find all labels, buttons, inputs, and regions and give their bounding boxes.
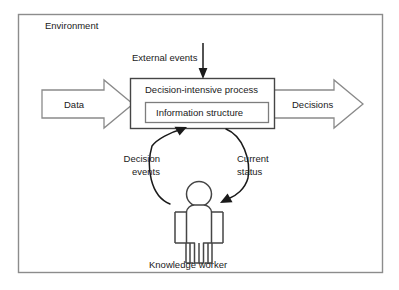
decision-events-label: Decisionevents xyxy=(112,152,160,178)
knowledge-worker-figure xyxy=(175,182,223,264)
diagram-graphics xyxy=(0,0,399,290)
decision-events-label-line1: Decision xyxy=(124,153,160,164)
data-flow-arrow xyxy=(42,80,133,128)
knowledge-worker-label: Knowledge worker xyxy=(149,259,227,270)
data-label: Data xyxy=(64,99,84,110)
information-structure-label: Information structure xyxy=(156,107,243,118)
current-status-label: Currentstatus xyxy=(237,152,289,178)
diagram-canvas: Environment External events Data Decisio… xyxy=(0,0,399,290)
environment-label: Environment xyxy=(45,20,98,31)
external-events-arrow xyxy=(199,43,208,79)
decision-intensive-process-label: Decision-intensive process xyxy=(145,84,258,95)
external-events-label: External events xyxy=(132,52,197,63)
current-status-label-line2: status xyxy=(237,166,262,177)
current-status-label-line1: Current xyxy=(237,153,269,164)
decision-events-label-line2: events xyxy=(132,166,160,177)
decisions-label: Decisions xyxy=(292,99,333,110)
